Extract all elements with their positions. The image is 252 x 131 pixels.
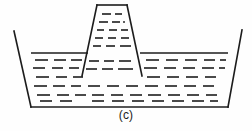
vessel-left-wall <box>14 31 31 107</box>
figure-container: (c) <box>0 0 252 131</box>
left-pool-hatching <box>33 60 86 101</box>
center-pool-hatching <box>88 86 142 95</box>
vessel-right-wall <box>228 30 242 107</box>
standpipe-outline <box>82 5 142 76</box>
figure-caption: (c) <box>0 108 252 122</box>
standpipe-left-wall <box>82 5 97 76</box>
standpipe-right-wall <box>127 5 142 76</box>
